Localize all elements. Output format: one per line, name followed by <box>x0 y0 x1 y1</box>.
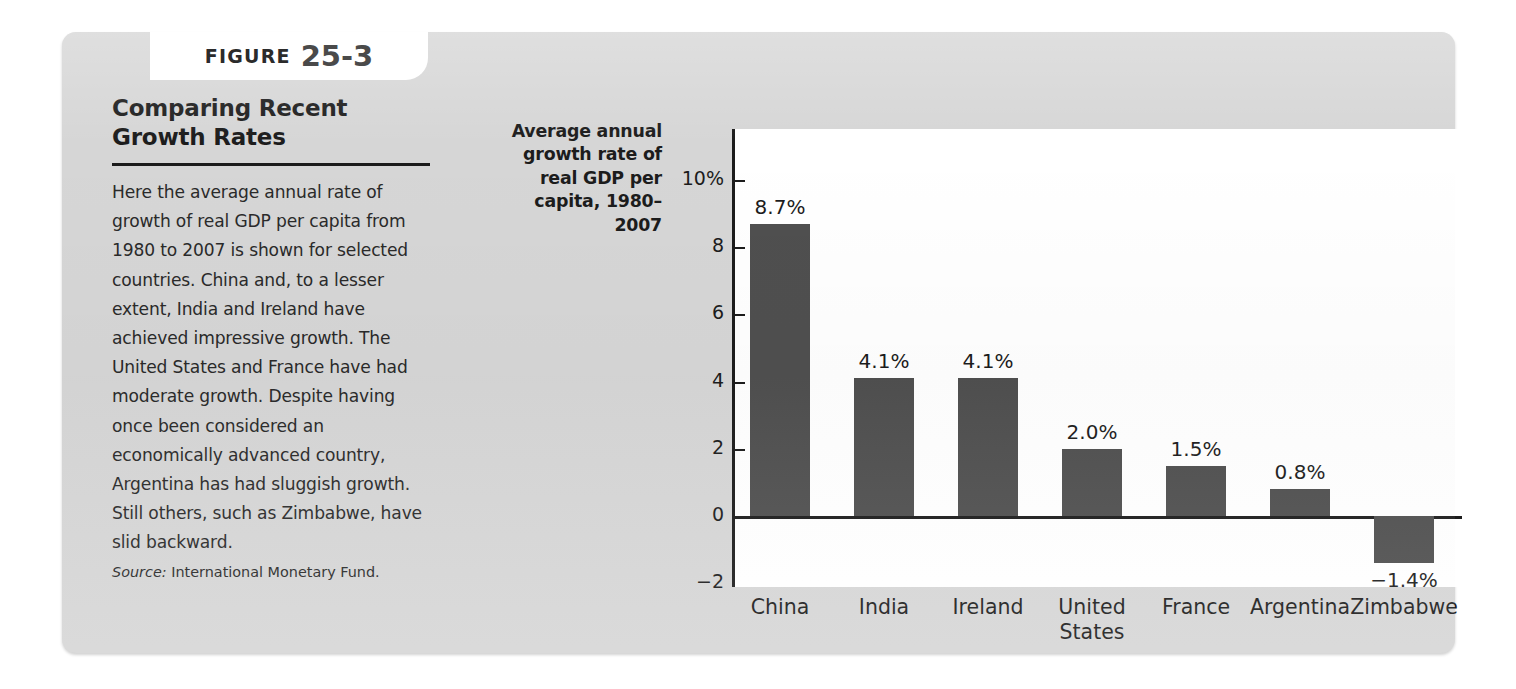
y-tick-mark <box>732 382 745 384</box>
source-text: International Monetary Fund. <box>171 564 380 580</box>
bar-value-label: −1.4% <box>1349 568 1459 592</box>
bar-value-label: 1.5% <box>1141 437 1251 461</box>
figure-tab-number: 25-3 <box>301 39 374 73</box>
y-tick-mark <box>732 247 745 249</box>
y-tick-label: 6 <box>662 301 724 323</box>
bar-value-label: 4.1% <box>933 349 1043 373</box>
bar-argentina <box>1270 489 1330 516</box>
figure-panel: FIGURE 25-3 Comparing Recent Growth Rate… <box>62 32 1455 653</box>
category-label: Zimbabwe <box>1344 595 1464 620</box>
bar-value-label: 2.0% <box>1037 420 1147 444</box>
bar-value-label: 8.7% <box>725 195 835 219</box>
figure-tab: FIGURE 25-3 <box>150 32 428 80</box>
title-divider <box>112 163 430 166</box>
bar-zimbabwe <box>1374 516 1434 563</box>
y-tick-label: 2 <box>662 436 724 458</box>
figure-page: FIGURE 25-3 Comparing Recent Growth Rate… <box>0 0 1516 689</box>
bar-united-states <box>1062 449 1122 516</box>
y-axis-caption: Average annual growth rate of real GDP p… <box>492 120 662 237</box>
y-tick-label: −2 <box>662 570 724 592</box>
bar-india <box>854 378 914 516</box>
y-tick-mark <box>732 449 745 451</box>
bar-value-label: 0.8% <box>1245 460 1355 484</box>
y-axis-tick-labels: 10%86420−2 <box>662 129 724 587</box>
figure-text-column: Comparing Recent Growth Rates Here the a… <box>112 94 432 582</box>
y-tick-label: 4 <box>662 369 724 391</box>
source-label: Source: <box>112 564 167 580</box>
x-axis-category-labels: ChinaIndiaIrelandUnited StatesFranceArge… <box>732 595 1472 655</box>
category-label: France <box>1136 595 1256 620</box>
y-tick-label: 10% <box>662 167 724 189</box>
y-tick-mark <box>732 314 745 316</box>
chart-plot-area: 8.7%4.1%4.1%2.0%1.5%0.8%−1.4% <box>732 129 1462 587</box>
category-label: Argentina <box>1240 595 1360 620</box>
figure-tab-word: FIGURE <box>205 45 291 67</box>
bar-value-label: 4.1% <box>829 349 939 373</box>
y-tick-label: 8 <box>662 234 724 256</box>
x-axis-zero-line <box>732 516 1462 519</box>
figure-caption-body: Here the average annual rate of growth o… <box>112 178 434 558</box>
y-tick-label: 0 <box>662 503 724 525</box>
figure-source: Source: International Monetary Fund. <box>112 562 432 582</box>
category-label: United States <box>1032 595 1152 645</box>
category-label: China <box>720 595 840 620</box>
bar-ireland <box>958 378 1018 516</box>
bar-china <box>750 224 810 516</box>
category-label: Ireland <box>928 595 1048 620</box>
bar-france <box>1166 466 1226 516</box>
figure-title: Comparing Recent Growth Rates <box>112 94 432 152</box>
y-tick-mark <box>732 180 745 182</box>
category-label: India <box>824 595 944 620</box>
